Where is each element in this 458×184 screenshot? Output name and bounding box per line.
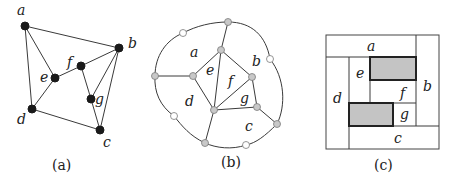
- node-top: [225, 19, 232, 26]
- edge-b5: [214, 50, 221, 110]
- panel-b-dual: a b c d e f g (b): [152, 19, 283, 171]
- region-label-f: f: [399, 85, 408, 101]
- edge-a-b: [25, 26, 119, 48]
- region-label-d: d: [333, 90, 342, 106]
- node-white-right: [267, 56, 274, 63]
- vertex-c: [96, 126, 104, 134]
- figure: a b c d e f g (a): [0, 0, 458, 184]
- node-bottom: [202, 140, 209, 147]
- edge-b1: [221, 22, 228, 50]
- region-label-a: a: [367, 38, 375, 54]
- vertex-label-a: a: [17, 2, 25, 18]
- face-label-f: f: [227, 73, 236, 89]
- vertex-d: [28, 105, 36, 113]
- region-label-g: g: [400, 106, 409, 122]
- edge-f-b: [81, 48, 119, 66]
- region-label-b: b: [423, 78, 432, 94]
- vertex-label-d: d: [17, 111, 26, 127]
- node-right-bottom: [274, 121, 281, 128]
- vertex-f: [77, 62, 85, 70]
- face-label-c: c: [245, 118, 253, 134]
- vertex-label-f: f: [66, 54, 75, 70]
- vertex-g: [87, 95, 95, 103]
- edge-a-d: [25, 26, 32, 109]
- edge-b10: [257, 107, 277, 124]
- face-label-e: e: [206, 62, 214, 78]
- node-center: [211, 107, 218, 114]
- panel-a-graph: a b c d e f g (a): [17, 2, 137, 173]
- edge-b9: [214, 107, 257, 110]
- caption-c: (c): [374, 157, 393, 173]
- node-white-lower-left: [171, 113, 178, 120]
- edge-f-g: [81, 66, 91, 99]
- region-label-e: e: [356, 65, 364, 81]
- node-fg: [249, 74, 256, 81]
- outer-boundary: [155, 22, 283, 148]
- edge-d-c: [32, 109, 100, 130]
- caption-a: (a): [52, 157, 71, 173]
- face-label-g: g: [240, 90, 249, 106]
- node-white-bottom: [243, 142, 250, 149]
- edge-b-c: [100, 48, 119, 130]
- vertex-label-g: g: [95, 91, 104, 107]
- shaded-rect-top: [370, 57, 416, 80]
- edge-b8: [252, 77, 257, 107]
- vertex-label-e: e: [40, 69, 48, 85]
- face-label-b: b: [252, 53, 261, 69]
- vertex-label-b: b: [128, 35, 137, 51]
- edge-b4: [193, 76, 214, 110]
- vertex-a: [21, 22, 29, 30]
- vertex-label-c: c: [103, 134, 111, 150]
- face-label-a: a: [190, 44, 198, 60]
- node-e-left: [190, 73, 197, 80]
- face-label-d: d: [185, 93, 194, 109]
- node-left: [152, 73, 159, 80]
- node-white-upper-left: [180, 30, 187, 37]
- vertex-e: [51, 74, 59, 82]
- shaded-rect-bottom: [349, 103, 393, 126]
- edge-b6: [221, 50, 252, 77]
- node-e-top: [218, 47, 225, 54]
- vertex-b: [115, 44, 123, 52]
- caption-b: (b): [221, 154, 241, 170]
- panel-c-rectangular-dual: a b c d e f g (c): [326, 35, 439, 173]
- region-label-c: c: [394, 130, 402, 146]
- node-g-right: [254, 104, 261, 111]
- edge-b11: [205, 110, 214, 143]
